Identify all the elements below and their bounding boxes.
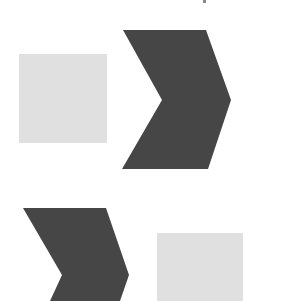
diagram-canvas bbox=[0, 0, 281, 301]
top-row-group bbox=[19, 30, 231, 169]
bottom-right-square-shape bbox=[157, 233, 243, 301]
diagram-svg bbox=[0, 0, 281, 301]
bottom-row-group bbox=[23, 208, 243, 301]
top-chevron-arrow-icon bbox=[122, 30, 231, 169]
top-left-square-shape bbox=[19, 54, 107, 143]
bottom-chevron-arrow-icon bbox=[23, 208, 129, 301]
top-edge-artifact bbox=[203, 0, 206, 3]
